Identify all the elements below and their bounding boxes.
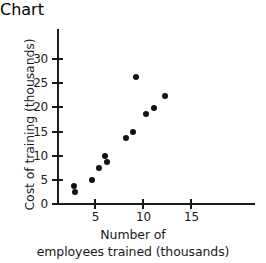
y-tick-mark [52,106,63,108]
x-tick-label: 5 [80,211,110,223]
y-tick-mark [52,58,63,60]
y-tick-mark [52,82,63,84]
y-tick-mark [52,179,63,181]
scatter-chart-figure: 051015202530 51015 Cost of training (tho… [0,19,266,263]
data-point [96,165,102,171]
y-tick-mark [52,155,63,157]
x-tick-mark [94,199,96,209]
data-point [102,153,108,159]
data-point [151,105,157,111]
data-point [104,159,110,165]
data-point [72,189,78,195]
x-tick-mark [190,199,192,209]
x-tick-label: 10 [128,211,158,223]
x-axis-label-line-2: employees trained (thousands) [0,244,266,261]
x-tick-label: 15 [176,211,206,223]
y-tick-mark [52,203,63,205]
data-point [143,111,149,117]
data-point [162,93,168,99]
plot-area: 051015202530 51015 Cost of training (tho… [0,19,266,263]
data-point [89,177,95,183]
x-tick-mark [142,199,144,209]
x-axis-line [57,203,255,205]
y-tick-mark [52,131,63,133]
data-point [71,183,77,189]
x-axis-label-line-1: Number of [0,227,266,244]
y-axis-label: Cost of training (thousands) [22,30,37,220]
x-axis-label: Number of employees trained (thousands) [0,227,266,261]
data-point [133,74,139,80]
data-point [130,129,136,135]
data-point [123,135,129,141]
